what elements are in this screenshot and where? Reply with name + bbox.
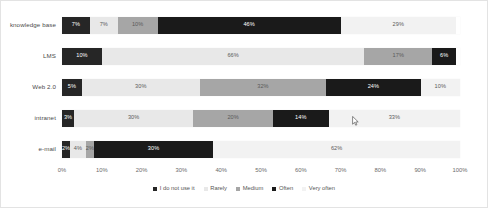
x-axis: 0%10%20%30%40%50%60%70%80%90%100%	[62, 168, 460, 180]
segment-value-label: 20%	[227, 115, 238, 121]
stacked-bar[interactable]: 10%66%17%6%	[62, 48, 460, 65]
segment-value-label: 30%	[135, 84, 146, 90]
segment-value-label: 29%	[393, 22, 404, 28]
bar-segment[interactable]: 2%	[86, 141, 94, 158]
segment-value-label: 10%	[435, 84, 446, 90]
segment-value-label: 10%	[132, 22, 143, 28]
bar-segment[interactable]: 20%	[193, 110, 273, 127]
bar-segment[interactable]: 6%	[432, 48, 456, 65]
axis-tick-label: 0%	[58, 168, 66, 174]
stacked-bar[interactable]: 2%4%2%30%62%	[62, 141, 460, 158]
segment-value-label: 30%	[148, 146, 159, 152]
bar-segment[interactable]: 30%	[94, 141, 213, 158]
bar-segment[interactable]: 7%	[62, 17, 90, 34]
legend-item[interactable]: Medium	[236, 186, 263, 192]
axis-tick-label: 10%	[96, 168, 108, 174]
axis-tick-label: 40%	[215, 168, 227, 174]
segment-value-label: 7%	[72, 22, 80, 28]
segment-value-label: 7%	[100, 22, 108, 28]
bar-segment[interactable]: 30%	[82, 79, 200, 96]
bar-row: LMS10%66%17%6%	[0, 45, 488, 67]
bar-segment[interactable]: 5%	[62, 79, 82, 96]
bar-segment[interactable]: 66%	[102, 48, 365, 65]
legend-swatch-icon	[204, 187, 208, 191]
segment-value-label: 6%	[440, 53, 448, 59]
legend-item[interactable]: Very often	[302, 186, 335, 192]
bar-row: intranet3%30%20%14%33%	[0, 107, 488, 129]
segment-value-label: 17%	[393, 53, 404, 59]
bar-segment[interactable]: 7%	[90, 17, 118, 34]
legend-item[interactable]: I do not use it	[153, 186, 195, 192]
segment-value-label: 3%	[64, 115, 72, 121]
legend-item[interactable]: Often	[272, 186, 293, 192]
legend-swatch-icon	[153, 187, 157, 191]
axis-tick-label: 90%	[414, 168, 426, 174]
segment-value-label: 62%	[331, 146, 342, 152]
stacked-bar[interactable]: 7%7%10%46%29%	[62, 17, 460, 34]
category-label: intranet	[0, 115, 62, 121]
bar-segment[interactable]: 4%	[70, 141, 86, 158]
axis-tick-label: 30%	[176, 168, 188, 174]
axis-tick-label: 20%	[136, 168, 148, 174]
bar-row: knowledge base7%7%10%46%29%	[0, 14, 488, 36]
bar-row: e-mail2%4%2%30%62%	[0, 138, 488, 160]
legend-label: I do not use it	[160, 186, 195, 192]
bar-segment[interactable]: 2%	[62, 141, 70, 158]
bar-segment[interactable]: 46%	[158, 17, 341, 34]
bar-segment[interactable]: 30%	[74, 110, 193, 127]
legend-item[interactable]: Rarely	[204, 186, 227, 192]
stacked-bar[interactable]: 5%30%32%24%10%	[62, 79, 460, 96]
bar-segment[interactable]: 24%	[326, 79, 421, 96]
axis-tick-label: 80%	[375, 168, 387, 174]
legend-swatch-icon	[272, 187, 276, 191]
bar-segment[interactable]: 29%	[341, 17, 456, 34]
bar-row: Web 2.05%30%32%24%10%	[0, 76, 488, 98]
bar-segment[interactable]: 62%	[213, 141, 460, 158]
segment-value-label: 30%	[128, 115, 139, 121]
axis-tick-label: 70%	[335, 168, 347, 174]
category-label: e-mail	[0, 146, 62, 152]
chart-legend: I do not use itRarelyMediumOftenVery oft…	[0, 186, 488, 192]
bar-segment[interactable]: 32%	[200, 79, 326, 96]
legend-label: Rarely	[210, 186, 227, 192]
segment-value-label: 66%	[227, 53, 238, 59]
bar-segment[interactable]: 17%	[364, 48, 432, 65]
category-label: LMS	[0, 53, 62, 59]
legend-label: Medium	[243, 186, 264, 192]
bar-segment[interactable]: 10%	[118, 17, 158, 34]
axis-tick-label: 50%	[255, 168, 267, 174]
segment-value-label: 5%	[68, 84, 76, 90]
segment-value-label: 32%	[257, 84, 268, 90]
bar-segment[interactable]: 10%	[62, 48, 102, 65]
legend-label: Often	[279, 186, 293, 192]
legend-swatch-icon	[236, 187, 240, 191]
bar-segment[interactable]: 33%	[329, 110, 460, 127]
category-label: knowledge base	[0, 22, 62, 28]
segment-value-label: 46%	[243, 22, 254, 28]
bar-segment[interactable]: 14%	[273, 110, 329, 127]
axis-tick-label: 60%	[295, 168, 307, 174]
bar-segment[interactable]: 10%	[421, 79, 460, 96]
axis-tick-label: 100%	[453, 168, 468, 174]
segment-value-label: 33%	[389, 115, 400, 121]
segment-value-label: 24%	[368, 84, 379, 90]
legend-swatch-icon	[302, 187, 306, 191]
stacked-bar[interactable]: 3%30%20%14%33%	[62, 110, 460, 127]
segment-value-label: 2%	[86, 146, 94, 152]
segment-value-label: 10%	[76, 53, 87, 59]
bar-segment[interactable]: 3%	[62, 110, 74, 127]
legend-label: Very often	[309, 186, 335, 192]
stacked-bar-chart: knowledge base7%7%10%46%29%LMS10%66%17%6…	[0, 0, 488, 208]
segment-value-label: 2%	[62, 146, 70, 152]
category-label: Web 2.0	[0, 84, 62, 90]
segment-value-label: 4%	[74, 146, 82, 152]
segment-value-label: 14%	[295, 115, 306, 121]
